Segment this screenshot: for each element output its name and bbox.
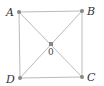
label-b: B — [86, 5, 95, 18]
point-b — [80, 9, 84, 13]
edge-da — [19, 12, 20, 78]
label-o: 0 — [48, 47, 54, 57]
point-c — [80, 75, 84, 79]
edge-ab — [19, 11, 82, 12]
label-d: D — [5, 73, 15, 86]
square-diagram: A B C D 0 — [0, 0, 104, 86]
point-d — [18, 76, 22, 80]
label-c: C — [87, 71, 96, 84]
point-a — [17, 10, 21, 14]
label-a: A — [5, 6, 14, 19]
point-o — [49, 42, 53, 46]
edge-cd — [20, 77, 82, 78]
